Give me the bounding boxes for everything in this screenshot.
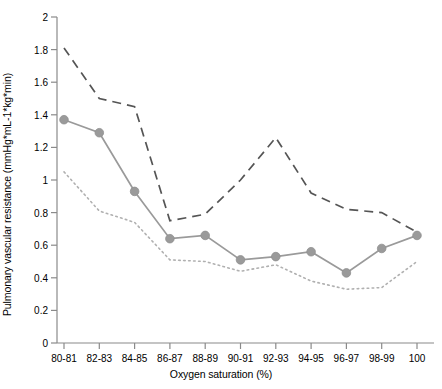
- data-point-marker: [166, 234, 175, 243]
- x-axis-tick-label: 92-93: [263, 353, 289, 364]
- x-axis-tick-label: 84-85: [122, 353, 148, 364]
- series-line-lower-confidence-limit: [64, 172, 417, 289]
- data-point-marker: [95, 128, 104, 137]
- series-line-mean: [64, 120, 417, 273]
- y-axis-tick-label: 0.4: [8, 272, 48, 283]
- x-axis-ticks: [64, 343, 417, 349]
- x-axis-tick-label: 98-99: [369, 353, 395, 364]
- data-point-marker: [201, 231, 210, 240]
- axes: [51, 17, 434, 349]
- data-point-marker: [342, 269, 351, 278]
- pulmonary-vascular-resistance-chart: 00.20.40.60.811.21.41.61.82 80-8182-8384…: [0, 0, 442, 389]
- x-axis-tick-label: 96-97: [334, 353, 360, 364]
- x-axis-tick-label: 94-95: [298, 353, 324, 364]
- data-point-marker: [60, 115, 69, 124]
- y-axis-tick-label: 1: [8, 175, 48, 186]
- series-line-upper-confidence-limit: [64, 48, 417, 232]
- x-axis-tick-label: 88-89: [192, 353, 218, 364]
- x-axis-tick-label: 82-83: [87, 353, 113, 364]
- data-point-marker: [236, 256, 245, 265]
- data-series-group: [64, 48, 417, 289]
- x-axis-tick-label: 80-81: [51, 353, 77, 364]
- y-axis-tick-label: 0: [8, 338, 48, 349]
- x-axis-tick-label: 86-87: [157, 353, 183, 364]
- y-axis-tick-label: 0.2: [8, 305, 48, 316]
- y-axis-tick-label: 0.6: [8, 240, 48, 251]
- y-axis-tick-label: 1.6: [8, 77, 48, 88]
- y-axis-tick-label: 1.2: [8, 142, 48, 153]
- data-point-marker: [272, 252, 281, 261]
- plot-area: [0, 0, 442, 389]
- x-axis-tick-label: 100: [409, 353, 426, 364]
- y-axis-tick-label: 0.8: [8, 207, 48, 218]
- x-axis-title: Oxygen saturation (%): [0, 368, 442, 380]
- x-axis-tick-label: 90-91: [228, 353, 254, 364]
- data-point-marker: [307, 247, 316, 256]
- y-axis-ticks: [51, 17, 57, 343]
- data-point-marker: [377, 244, 386, 253]
- y-axis-tick-label: 1.4: [8, 109, 48, 120]
- y-axis-tick-label: 1.8: [8, 44, 48, 55]
- y-axis-title: Pulmonary vascular resistance (mmHg*mL-1…: [0, 0, 14, 389]
- data-markers-group: [60, 115, 422, 277]
- y-axis-tick-label: 2: [8, 12, 48, 23]
- data-point-marker: [413, 231, 422, 240]
- data-point-marker: [130, 187, 139, 196]
